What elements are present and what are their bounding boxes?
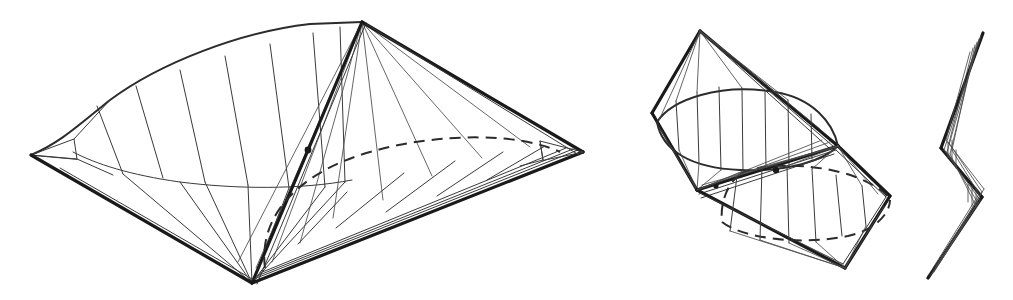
figure-plate [0, 0, 1013, 300]
ridge-midpoint-node [305, 147, 312, 154]
canvas-background [0, 0, 1013, 300]
mid-ridge-node [773, 167, 779, 173]
line-drawing-canvas [0, 0, 1013, 300]
